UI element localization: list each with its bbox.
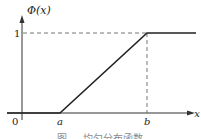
origin-label: 0 <box>12 116 18 127</box>
tick-label-one: 1 <box>14 28 20 39</box>
figure-caption: 图 — 均匀分布函数 <box>57 132 143 139</box>
tick-label-b: b <box>144 116 150 127</box>
y-axis-arrow-icon <box>20 15 25 23</box>
tick-label-a: a <box>57 116 63 127</box>
x-axis-label: x <box>194 108 200 119</box>
cdf-chart: Φ(x) 1 0 a b x 图 — 均匀分布函数 <box>0 0 201 139</box>
cdf-line <box>7 33 196 113</box>
y-axis-label: Φ(x) <box>27 4 51 17</box>
